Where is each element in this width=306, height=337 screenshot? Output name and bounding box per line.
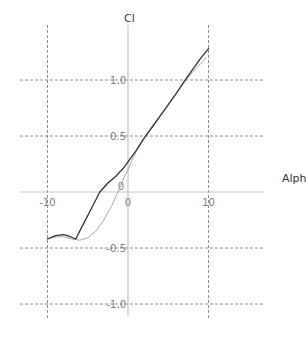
y-tick-label: 0.5 [110, 131, 126, 142]
y-tick-label: -1.0 [106, 299, 126, 310]
x-axis-title: Alpha [282, 172, 306, 185]
axes [20, 25, 264, 316]
y-tick-label: -0.5 [106, 243, 126, 254]
x-tick-label: 0 [125, 197, 131, 208]
y-tick-label: 1.0 [110, 75, 126, 86]
y-axis-title: Cl [124, 12, 135, 25]
cl-alpha-chart: -10010-1.0-0.50.51.00 Alpha Cl [0, 0, 306, 337]
x-tick-label: -10 [39, 197, 55, 208]
grid-lines [20, 25, 264, 318]
x-tick-label: 10 [202, 197, 215, 208]
